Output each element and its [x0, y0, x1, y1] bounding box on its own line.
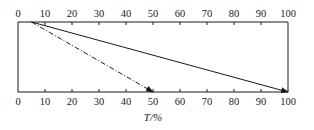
- bottom-tick-label: 90: [256, 96, 267, 107]
- bottom-tick-label: 80: [229, 96, 240, 107]
- transmittance-diagram: 0102030405060708090100 01020304050607080…: [0, 0, 314, 130]
- arrows: [32, 22, 289, 92]
- bottom-tick-label: 100: [280, 96, 296, 107]
- top-tick-label: 90: [256, 8, 267, 19]
- bottom-tick-label: 30: [94, 96, 105, 107]
- bottom-tick-label: 20: [67, 96, 78, 107]
- top-tick-label: 60: [175, 8, 186, 19]
- bottom-tick-label: 0: [15, 96, 20, 107]
- top-tick-label: 20: [67, 8, 78, 19]
- bottom-tick-label: 70: [202, 96, 213, 107]
- top-tick-label: 30: [94, 8, 105, 19]
- bottom-tick-label: 60: [175, 96, 186, 107]
- solid-arrow: [32, 22, 289, 92]
- top-tick-label: 0: [15, 8, 20, 19]
- top-tick-label: 50: [148, 8, 159, 19]
- top-tick-label: 10: [40, 8, 51, 19]
- top-tick-label: 40: [121, 8, 132, 19]
- bottom-tick-label: 50: [148, 96, 159, 107]
- dashed-arrow: [32, 22, 154, 92]
- top-tick-label: 70: [202, 8, 213, 19]
- bottom-axis-label: T/%: [144, 111, 162, 123]
- bottom-tick-label: 40: [121, 96, 132, 107]
- top-tick-label: 100: [280, 8, 296, 19]
- top-tick-label: 80: [229, 8, 240, 19]
- bottom-tick-label: 10: [40, 96, 51, 107]
